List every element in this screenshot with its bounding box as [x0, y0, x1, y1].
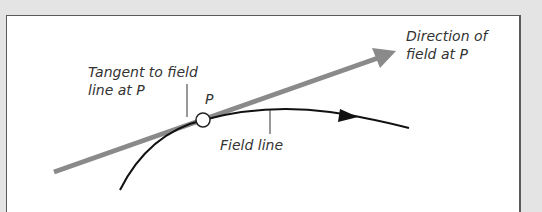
point-p-label: P — [205, 90, 213, 108]
tangent-label: Tangent to field line at P — [88, 63, 198, 99]
point-p-marker — [196, 113, 210, 127]
field-line-label: Field line — [220, 136, 283, 154]
direction-label: Direction of field at P — [406, 27, 488, 63]
